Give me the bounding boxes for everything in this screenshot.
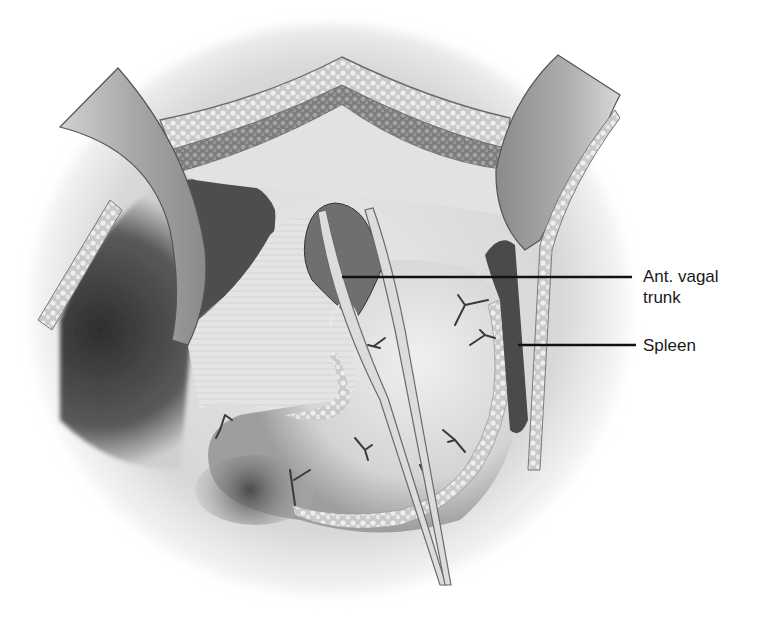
surgical-illustration [0, 0, 772, 621]
label-ant-vagal-trunk: Ant. vagal trunk [643, 266, 719, 308]
label-spleen: Spleen [643, 335, 696, 356]
